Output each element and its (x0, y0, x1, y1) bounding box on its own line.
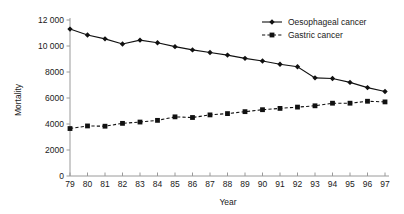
y-tick-label: 10 000 (38, 41, 64, 51)
data-point (312, 75, 317, 80)
chart-legend: Oesophageal cancerGastric cancer (262, 17, 367, 40)
x-tick-label: 88 (223, 179, 233, 189)
data-point (155, 118, 160, 123)
x-tick-label: 95 (345, 179, 355, 189)
x-tick-label: 87 (205, 179, 215, 189)
legend-marker (270, 33, 275, 38)
y-axis: 0200040006000800010 00012 000 (38, 15, 70, 181)
data-point (277, 62, 282, 67)
data-point (225, 52, 230, 57)
legend-item: Gastric cancer (262, 30, 343, 40)
data-point (243, 109, 248, 114)
x-tick-label: 86 (188, 179, 198, 189)
data-point (295, 105, 300, 110)
x-axis: 79808182838485868788899091929394959697 (65, 173, 390, 190)
data-point (260, 58, 265, 63)
data-point (365, 99, 370, 104)
legend-item: Oesophageal cancer (262, 17, 367, 27)
x-tick-label: 96 (363, 179, 373, 189)
data-point (348, 101, 353, 106)
mortality-line-chart: 0200040006000800010 00012 000 7980818283… (0, 0, 404, 214)
data-point (208, 113, 213, 118)
data-point (313, 103, 318, 108)
y-axis-title: Mortality (13, 83, 23, 116)
legend-label: Gastric cancer (288, 30, 343, 40)
x-tick-label: 84 (153, 179, 163, 189)
data-series-group (67, 26, 387, 131)
x-tick-label: 94 (328, 179, 338, 189)
x-axis-title: Year (219, 197, 236, 207)
data-point (190, 115, 195, 120)
data-point (242, 56, 247, 61)
x-tick-label: 79 (65, 179, 75, 189)
data-point (330, 101, 335, 106)
data-point (260, 107, 265, 112)
legend-label: Oesophageal cancer (288, 17, 367, 27)
data-point (347, 80, 352, 85)
data-point (172, 44, 177, 49)
x-tick-label: 80 (83, 179, 93, 189)
data-point (330, 76, 335, 81)
y-tick-label: 2000 (45, 145, 64, 155)
y-tick-label: 0 (59, 171, 64, 181)
data-point (383, 100, 388, 105)
data-point (85, 124, 90, 129)
y-tick-label: 8000 (45, 67, 64, 77)
data-point (85, 32, 90, 37)
data-point (103, 124, 108, 129)
y-tick-label: 12 000 (38, 15, 64, 25)
x-tick-label: 93 (310, 179, 320, 189)
data-point (137, 37, 142, 42)
x-tick-label: 82 (118, 179, 128, 189)
data-point (207, 50, 212, 55)
data-point (173, 114, 178, 119)
data-point (120, 41, 125, 46)
chart-container: 0200040006000800010 00012 000 7980818283… (0, 0, 404, 214)
x-tick-label: 89 (240, 179, 250, 189)
series-gastric (68, 99, 388, 131)
x-tick-label: 83 (135, 179, 145, 189)
y-tick-label: 4000 (45, 119, 64, 129)
x-tick-label: 92 (293, 179, 303, 189)
data-point (67, 26, 72, 31)
data-point (138, 120, 143, 125)
x-tick-label: 97 (380, 179, 390, 189)
x-tick-label: 81 (100, 179, 110, 189)
data-point (190, 47, 195, 52)
x-tick-label: 90 (258, 179, 268, 189)
x-tick-label: 85 (170, 179, 180, 189)
data-point (365, 85, 370, 90)
data-point (102, 36, 107, 41)
data-point (68, 126, 73, 131)
data-point (225, 111, 230, 116)
x-tick-label: 91 (275, 179, 285, 189)
data-point (120, 121, 125, 126)
data-point (278, 106, 283, 111)
data-point (155, 40, 160, 45)
legend-marker (269, 19, 274, 24)
data-point (295, 64, 300, 69)
y-tick-label: 6000 (45, 93, 64, 103)
data-point (382, 89, 387, 94)
